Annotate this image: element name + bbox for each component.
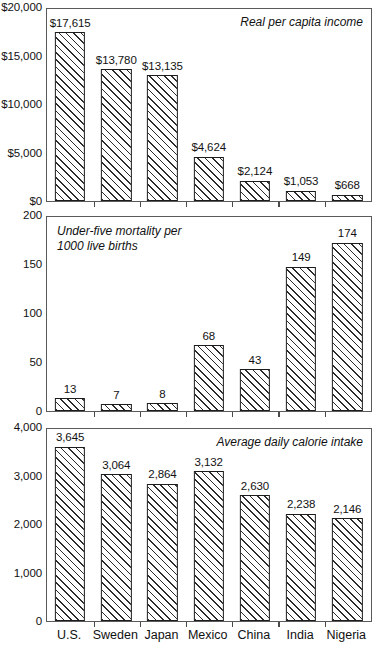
bar[interactable] <box>240 181 270 201</box>
bar[interactable] <box>194 345 224 411</box>
x-tick-mark <box>140 202 141 207</box>
bar[interactable] <box>194 471 224 621</box>
y-tick-label: $0 <box>29 196 42 208</box>
y-tick-label: $10,000 <box>1 99 42 111</box>
chart-panel-2: 050100150200Under-five mortality per 100… <box>0 216 380 412</box>
y-tick-label: 2,000 <box>14 519 42 531</box>
x-axis-label-china: China <box>231 628 277 642</box>
bar-value-label: 2,864 <box>148 469 176 481</box>
bar[interactable] <box>240 495 270 621</box>
bar-group: $13,135 <box>139 9 185 201</box>
bar[interactable] <box>240 369 270 411</box>
bar[interactable] <box>194 157 224 201</box>
x-tick-mark <box>94 412 95 417</box>
plot-inner: Under-five mortality per 1000 live birth… <box>47 217 371 411</box>
plot-area-2: Under-five mortality per 1000 live birth… <box>46 216 372 412</box>
bar-group: 2,146 <box>324 429 370 621</box>
x-tick-mark <box>325 412 326 417</box>
bar[interactable] <box>101 404 131 411</box>
y-axis-2: 050100150200 <box>0 216 46 412</box>
bar[interactable] <box>55 447 85 621</box>
x-axis-label-mexico: Mexico <box>185 628 231 642</box>
bar-value-label: 3,064 <box>102 460 130 472</box>
x-axis-label-u-s: U.S. <box>46 628 92 642</box>
bar-group: 3,132 <box>186 429 232 621</box>
bar-group: 3,064 <box>93 429 139 621</box>
y-tick-label: 150 <box>23 259 42 271</box>
bar[interactable] <box>147 484 177 621</box>
bar-group: 68 <box>186 217 232 411</box>
bar[interactable] <box>286 267 316 411</box>
plot-area-1: Real per capita income$17,615$13,780$13,… <box>46 8 372 202</box>
x-tick-mark <box>278 622 279 627</box>
x-tick-mark <box>278 202 279 207</box>
bar-group: 2,864 <box>139 429 185 621</box>
x-tick-mark <box>140 622 141 627</box>
x-axis-category-labels: U.S.SwedenJapanMexicoChinaIndiaNigeria <box>46 628 372 646</box>
y-tick-label: 100 <box>23 308 42 320</box>
y-tick-label: 50 <box>29 357 42 369</box>
bar[interactable] <box>332 243 362 411</box>
x-tick-mark <box>232 412 233 417</box>
bar-value-label: $4,624 <box>191 142 226 154</box>
y-axis-1: $0$5,000$10,000$15,000$20,000 <box>0 8 46 202</box>
bar[interactable] <box>101 69 131 201</box>
y-tick-label: $15,000 <box>1 51 42 63</box>
bar-group: 2,630 <box>232 429 278 621</box>
bar-group: 8 <box>139 217 185 411</box>
chart-panel-1: $0$5,000$10,000$15,000$20,000Real per ca… <box>0 8 380 202</box>
bar[interactable] <box>332 195 362 201</box>
x-axis-label-nigeria: Nigeria <box>323 628 369 642</box>
x-tick-mark <box>94 202 95 207</box>
bar-value-label: 8 <box>159 389 165 401</box>
bar-group: $4,624 <box>186 9 232 201</box>
x-tick-mark <box>140 412 141 417</box>
x-axis-ticks-1 <box>46 202 372 207</box>
bar-group: 13 <box>47 217 93 411</box>
x-axis-label-sweden: Sweden <box>92 628 138 642</box>
y-tick-label: 3,000 <box>14 471 42 483</box>
x-axis-label-india: India <box>277 628 323 642</box>
bar-group: 43 <box>232 217 278 411</box>
bar[interactable] <box>101 474 131 621</box>
bar-value-label: 174 <box>338 228 357 240</box>
bar-value-label: 13 <box>64 384 77 396</box>
y-tick-label: 0 <box>36 406 42 418</box>
bar[interactable] <box>286 514 316 621</box>
bar[interactable] <box>147 75 177 201</box>
bar-group: 174 <box>324 217 370 411</box>
bar-value-label: 68 <box>202 331 215 343</box>
plot-inner: Real per capita income$17,615$13,780$13,… <box>47 9 371 201</box>
bar[interactable] <box>55 398 85 411</box>
bar-group: 149 <box>278 217 324 411</box>
bar-value-label: $13,135 <box>142 61 183 73</box>
bar-value-label: 2,238 <box>287 499 315 511</box>
x-tick-mark <box>325 622 326 627</box>
bar-value-label: 7 <box>113 390 119 402</box>
bar[interactable] <box>55 32 85 201</box>
bar-group: $668 <box>324 9 370 201</box>
bar-value-label: 2,146 <box>333 504 361 516</box>
bar[interactable] <box>286 191 316 201</box>
bar-group: $17,615 <box>47 9 93 201</box>
bar[interactable] <box>332 518 362 621</box>
x-tick-mark <box>232 202 233 207</box>
y-tick-label: $20,000 <box>1 2 42 14</box>
bar-value-label: $1,053 <box>284 176 319 188</box>
x-tick-mark <box>325 202 326 207</box>
bar-value-label: 43 <box>249 355 262 367</box>
bar-group: 2,238 <box>278 429 324 621</box>
plot-area-3: Average daily calorie intake3,6453,0642,… <box>46 428 372 622</box>
bar-series: 13786843149174 <box>47 217 371 411</box>
bar-value-label: $2,124 <box>238 166 273 178</box>
bar[interactable] <box>147 403 177 411</box>
x-tick-mark <box>278 412 279 417</box>
bar-series: 3,6453,0642,8643,1322,6302,2382,146 <box>47 429 371 621</box>
bar-value-label: 149 <box>292 252 311 264</box>
y-axis-3: 01,0002,0003,0004,000 <box>0 428 46 622</box>
bar-group: $13,780 <box>93 9 139 201</box>
multi-panel-bar-chart-figure: $0$5,000$10,000$15,000$20,000Real per ca… <box>0 0 380 652</box>
bar-value-label: $17,615 <box>50 18 91 30</box>
bar-group: $2,124 <box>232 9 278 201</box>
y-tick-label: 4,000 <box>14 422 42 434</box>
